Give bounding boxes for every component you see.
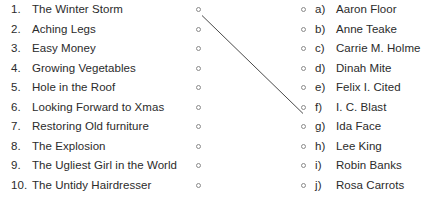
match-node-circle[interactable] — [196, 105, 201, 110]
match-node-circle[interactable] — [196, 124, 201, 129]
match-node-circle[interactable] — [301, 124, 306, 129]
right-column-names: a)Aaron Floorb)Anne Teakec)Carrie M. Hol… — [296, 0, 443, 195]
match-node-circle[interactable] — [196, 144, 201, 149]
match-node-circle[interactable] — [301, 105, 306, 110]
match-node-circle[interactable] — [196, 7, 201, 12]
match-node-circle[interactable] — [196, 66, 201, 71]
name-row[interactable]: j)Rosa Carrots — [296, 176, 443, 196]
name-row[interactable]: b)Anne Teake — [296, 20, 443, 40]
item-letter: h) — [315, 141, 336, 153]
title-row[interactable]: 4.Growing Vegetables — [0, 59, 215, 79]
name-label: Anne Teake — [336, 24, 443, 36]
match-node-circle[interactable] — [301, 163, 306, 168]
item-letter: f) — [315, 102, 336, 114]
name-row[interactable]: g)Ida Face — [296, 117, 443, 137]
matching-exercise: 1.The Winter Storm2.Aching Legs3.Easy Mo… — [0, 0, 443, 206]
name-label: Felix I. Cited — [336, 82, 443, 94]
match-node-circle[interactable] — [196, 46, 201, 51]
match-node-circle[interactable] — [301, 183, 306, 188]
name-label: Carrie M. Holme — [336, 43, 443, 55]
item-number: 4. — [11, 63, 32, 75]
name-label: Dinah Mite — [336, 63, 443, 75]
name-label: Lee King — [336, 141, 443, 153]
title-row[interactable]: 10.The Untidy Hairdresser — [0, 176, 215, 196]
match-node-circle[interactable] — [196, 85, 201, 90]
item-number: 8. — [11, 141, 32, 153]
match-node-circle[interactable] — [196, 27, 201, 32]
item-number: 2. — [11, 24, 32, 36]
item-letter: j) — [315, 180, 336, 192]
title-row[interactable]: 6.Looking Forward to Xmas — [0, 98, 215, 118]
title-label: Looking Forward to Xmas — [32, 102, 196, 114]
name-row[interactable]: c)Carrie M. Holme — [296, 39, 443, 59]
name-row[interactable]: f)I. C. Blast — [296, 98, 443, 118]
connector-line[interactable] — [202, 16, 303, 114]
title-row[interactable]: 3.Easy Money — [0, 39, 215, 59]
name-label: Aaron Floor — [336, 4, 443, 16]
item-number: 1. — [11, 4, 32, 16]
name-label: Robin Banks — [336, 160, 443, 172]
name-row[interactable]: a)Aaron Floor — [296, 0, 443, 20]
name-label: I. C. Blast — [336, 102, 443, 114]
title-row[interactable]: 8.The Explosion — [0, 137, 215, 157]
match-node-circle[interactable] — [301, 27, 306, 32]
name-label: Rosa Carrots — [336, 180, 443, 192]
item-letter: d) — [315, 63, 336, 75]
match-node-circle[interactable] — [196, 163, 201, 168]
title-label: The Ugliest Girl in the World — [32, 160, 196, 172]
title-label: Easy Money — [32, 43, 196, 55]
left-column-titles: 1.The Winter Storm2.Aching Legs3.Easy Mo… — [0, 0, 215, 195]
item-letter: c) — [315, 43, 336, 55]
title-row[interactable]: 1.The Winter Storm — [0, 0, 215, 20]
match-node-circle[interactable] — [301, 66, 306, 71]
title-label: Growing Vegetables — [32, 63, 196, 75]
title-label: Restoring Old furniture — [32, 121, 196, 133]
name-row[interactable]: d)Dinah Mite — [296, 59, 443, 79]
title-row[interactable]: 7.Restoring Old furniture — [0, 117, 215, 137]
title-label: The Untidy Hairdresser — [32, 180, 196, 192]
match-node-circle[interactable] — [301, 144, 306, 149]
item-number: 6. — [11, 102, 32, 114]
title-label: The Winter Storm — [32, 4, 196, 16]
item-letter: b) — [315, 24, 336, 36]
title-row[interactable]: 5.Hole in the Roof — [0, 78, 215, 98]
match-node-circle[interactable] — [301, 46, 306, 51]
title-label: The Explosion — [32, 141, 196, 153]
item-number: 10. — [11, 180, 32, 192]
match-node-circle[interactable] — [301, 85, 306, 90]
match-node-circle[interactable] — [301, 7, 306, 12]
match-node-circle[interactable] — [196, 183, 201, 188]
item-letter: i) — [315, 160, 336, 172]
name-row[interactable]: e)Felix I. Cited — [296, 78, 443, 98]
item-number: 3. — [11, 43, 32, 55]
item-number: 9. — [11, 160, 32, 172]
title-label: Hole in the Roof — [32, 82, 196, 94]
item-letter: e) — [315, 82, 336, 94]
title-row[interactable]: 2.Aching Legs — [0, 20, 215, 40]
item-number: 7. — [11, 121, 32, 133]
name-row[interactable]: h)Lee King — [296, 137, 443, 157]
item-letter: a) — [315, 4, 336, 16]
name-label: Ida Face — [336, 121, 443, 133]
name-row[interactable]: i)Robin Banks — [296, 156, 443, 176]
item-letter: g) — [315, 121, 336, 133]
item-number: 5. — [11, 82, 32, 94]
title-row[interactable]: 9.The Ugliest Girl in the World — [0, 156, 215, 176]
title-label: Aching Legs — [32, 24, 196, 36]
